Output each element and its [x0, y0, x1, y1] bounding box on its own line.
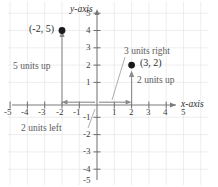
- data-point-b: [128, 62, 135, 69]
- y-axis-arrow: [95, 9, 100, 15]
- point-a-label: (-2, 5): [29, 24, 54, 34]
- coordinate-plane-figure: y-axis x-axis -5 -4 -3 -2 -1 1 2 3 4 5 5…: [0, 0, 218, 187]
- y-tick-label-4: 4: [86, 26, 91, 35]
- y-tick-label-3: 3: [86, 43, 91, 52]
- three-units-right-arrowhead: [126, 100, 132, 105]
- x-tick-label-2: 2: [129, 108, 134, 117]
- x-tick-label-neg5: -5: [4, 108, 12, 117]
- x-tick-label-neg4: -4: [21, 108, 29, 117]
- x-tick-label-4: 4: [163, 108, 168, 117]
- point-b-label: (3, 2): [140, 58, 162, 68]
- x-tick-label-neg3: -3: [38, 108, 46, 117]
- y-tick-label-neg2: -2: [83, 130, 91, 139]
- annotation-three-units-right: 3 units right: [124, 47, 170, 57]
- x-tick-label-neg2: -2: [56, 108, 64, 117]
- data-point-a: [59, 27, 66, 34]
- y-tick-label-neg1: -1: [83, 113, 91, 122]
- x-tick-label-3: 3: [146, 108, 151, 117]
- x-tick-label-1: 1: [112, 108, 117, 117]
- x-tick-label-5: 5: [181, 108, 186, 117]
- y-tick-label-neg3: -3: [83, 147, 91, 156]
- y-tick-label-2: 2: [86, 61, 91, 70]
- y-tick-label-5: 5: [86, 9, 91, 18]
- x-tick-label-neg1: -1: [73, 108, 81, 117]
- x-axis-arrow: [170, 103, 176, 108]
- annotation-five-units-up: 5 units up: [13, 62, 50, 72]
- y-tick-label-1: 1: [86, 78, 91, 87]
- three-units-right-leader-line: [112, 57, 125, 100]
- y-tick-label-neg4: -4: [83, 165, 91, 174]
- annotation-two-units-up: 2 units up: [137, 76, 174, 86]
- annotation-two-units-left: 2 units left: [21, 124, 62, 134]
- two-units-up-arrowhead: [129, 71, 134, 78]
- y-tick-label-neg5: -5: [83, 176, 91, 185]
